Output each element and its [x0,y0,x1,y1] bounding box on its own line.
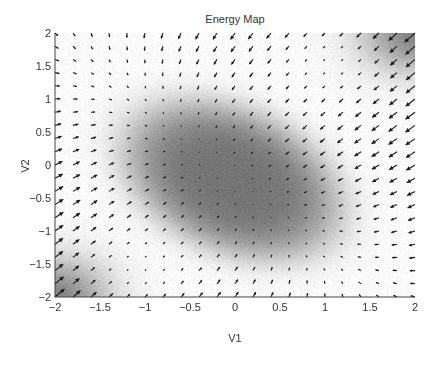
x-tick-label: 2 [412,301,418,313]
y-tick-label: −1.5 [29,258,51,270]
quiver-arrow [145,270,146,271]
x-tick-label: 0.5 [272,301,287,313]
quiver-arrow [271,242,272,244]
quiver-arrow [271,229,272,231]
quiver-arrow [199,177,200,178]
quiver-arrow [287,204,289,205]
x-tick-label: 1 [322,301,328,313]
quiver-arrow [163,112,164,114]
y-tick-label: 0 [45,159,51,171]
quiver-arrow [162,86,163,89]
quiver-arrow [288,242,289,244]
y-axis-label: V2 [19,159,31,172]
quiver-arrow [323,230,325,231]
quiver-arrow [234,165,235,166]
energy-map-figure: Energy Map −2−1.5−1−0.500.511.52 −2−1.5−… [0,0,438,365]
quiver-arrow [181,139,182,140]
quiver-arrow [145,138,148,139]
quiver-arrow [252,178,253,179]
y-tick-label: 0.5 [36,126,51,138]
quiver-arrow [163,99,164,101]
quiver-arrow [199,152,200,153]
x-tick-label: −1.5 [89,301,111,313]
quiver-arrow [127,125,130,126]
y-tick-label: 2 [45,27,51,39]
quiver-arrow [181,164,183,165]
x-tick-label: 1.5 [362,301,377,313]
x-axis-label: V1 [228,332,241,344]
y-tick-label: 1.5 [36,60,51,72]
y-tick-label: −2 [38,291,51,303]
chart-title: Energy Map [205,13,264,25]
quiver-arrow [288,255,289,257]
y-tick-label: −0.5 [29,192,51,204]
quiver-arrow [305,217,307,218]
quiver-arrow [198,125,199,127]
quiver-arrow [235,204,236,205]
y-tick-label: −1 [38,225,51,237]
y-tick-label: 1 [45,93,51,105]
quiver-arrow [163,151,165,152]
quiver-arrow [163,138,165,139]
quiver-arrow [216,139,217,141]
x-tick-labels: −2−1.5−1−0.500.511.52 [49,301,418,313]
x-tick-label: 0 [232,301,238,313]
x-tick-label: −0.5 [179,301,201,313]
y-tick-labels: −2−1.5−1−0.500.511.52 [29,27,51,303]
quiver-arrow [305,230,307,231]
quiver-arrow [217,190,218,191]
quiver-arrow [180,112,181,114]
x-tick-label: −1 [139,301,152,313]
quiver-arrow [163,125,164,126]
quiver-arrow [288,230,289,231]
